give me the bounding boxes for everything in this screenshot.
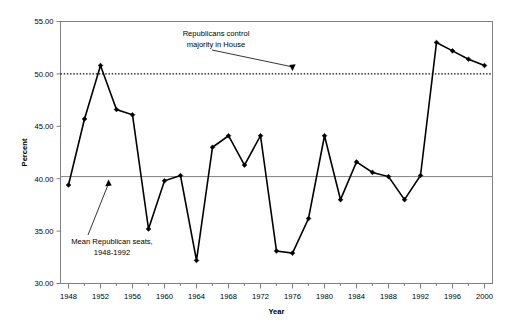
x-axis-tick-label: 2000 [476,292,493,301]
mean-annotation-line: Mean Republican seats, [71,237,152,246]
x-axis-tick-label: 1984 [348,292,365,301]
y-axis-tick-label: 40.00 [34,175,53,184]
x-axis-tick-label: 1968 [220,292,237,301]
x-axis-tick-label: 1976 [284,292,301,301]
y-axis-tick-label: 45.00 [34,122,53,131]
x-axis-tick-label: 1992 [412,292,429,301]
republican-house-seats-chart: 30.0035.0040.0045.0050.0055.00Percent194… [0,0,522,330]
mean-annotation-line: 1948-1992 [94,248,130,257]
y-axis-tick-label: 55.00 [34,17,53,26]
x-axis: 1948195219561960196419681972197619801984… [60,284,493,301]
x-axis-tick-label: 1956 [124,292,141,301]
y-axis: 30.0035.0040.0045.0050.0055.00 [34,17,60,288]
x-axis-tick-label: 1952 [92,292,109,301]
x-axis-tick-label: 1980 [316,292,333,301]
y-axis-tick-label: 30.00 [34,279,53,288]
majority-annotation-line: Republicans control [183,29,250,38]
majority-annotation-line: majority in House [187,40,246,49]
y-axis-tick-label: 35.00 [34,227,53,236]
x-axis-tick-label: 1972 [252,292,269,301]
x-axis-tick-label: 1960 [156,292,173,301]
chart-canvas: 30.0035.0040.0045.0050.0055.00Percent194… [0,0,522,330]
x-axis-tick-label: 1948 [60,292,77,301]
x-axis-tick-label: 1988 [380,292,397,301]
x-axis-title: Year [268,307,284,316]
y-axis-tick-label: 50.00 [34,70,53,79]
x-axis-tick-label: 1996 [444,292,461,301]
y-axis-title: Percent [20,138,29,166]
x-axis-tick-label: 1964 [188,292,205,301]
